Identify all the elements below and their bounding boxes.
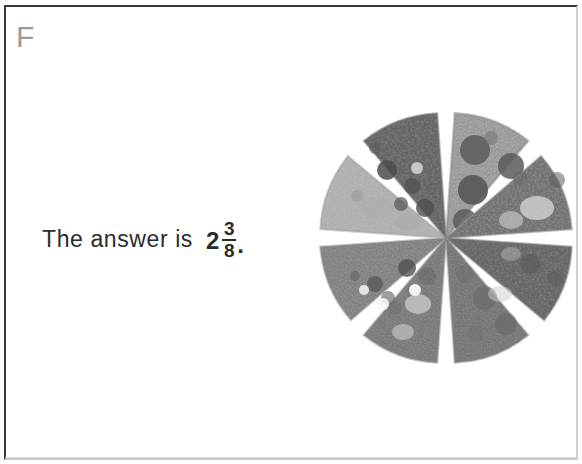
- whole-number-part: 2: [206, 229, 219, 253]
- panel-bottom-rule: [5, 457, 578, 458]
- answer-prefix-text: The answer is: [42, 224, 193, 254]
- panel-label: F: [16, 22, 35, 52]
- fraction-denominator: 8: [223, 242, 236, 259]
- fraction: 3 8: [222, 220, 236, 259]
- answer-statement: The answer is 2 3 8 .: [42, 219, 244, 258]
- mixed-number: 2 3 8 .: [206, 221, 244, 260]
- worksheet-panel: F The answer is 2 3 8 .: [0, 0, 582, 464]
- fraction-numerator: 3: [223, 220, 236, 237]
- sentence-period: .: [237, 230, 244, 260]
- pizza-slices-svg: [315, 108, 577, 370]
- pizza-image: [315, 108, 577, 370]
